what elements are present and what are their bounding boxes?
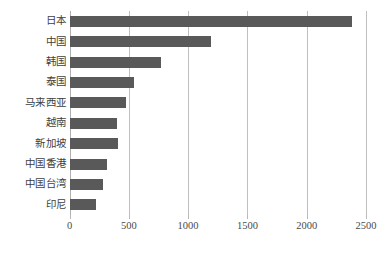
bars-layer (70, 11, 367, 215)
bar (70, 159, 107, 170)
value-axis: 05001000150020002500 (70, 219, 367, 239)
tick-label: 500 (121, 219, 137, 232)
category-label: 中国香港 (0, 158, 66, 170)
tick-label: 1500 (237, 219, 258, 232)
bar (70, 138, 119, 149)
category-axis: 日本中国韩国泰国马来西亚越南新加坡中国香港中国台湾印尼 (0, 11, 66, 215)
category-label: 日本 (0, 15, 66, 27)
bar (70, 199, 96, 210)
bar (70, 179, 104, 190)
tick-label: 1000 (178, 219, 199, 232)
tick-label: 0 (67, 219, 72, 232)
category-label: 马来西亚 (0, 97, 66, 109)
bar (70, 16, 352, 27)
tick-label: 2000 (296, 219, 317, 232)
category-label: 新加坡 (0, 138, 66, 150)
bar (70, 57, 161, 68)
category-label: 中国台湾 (0, 178, 66, 190)
tick-label: 2500 (356, 219, 377, 232)
plot-area (70, 11, 367, 215)
bar (70, 36, 211, 47)
bar (70, 97, 126, 108)
category-label: 韩国 (0, 56, 66, 68)
gridline-2500 (366, 11, 367, 215)
bar-chart: 日本中国韩国泰国马来西亚越南新加坡中国香港中国台湾印尼 050010001500… (0, 0, 390, 262)
category-label: 越南 (0, 117, 66, 129)
category-label: 中国 (0, 36, 66, 48)
bar (70, 118, 117, 129)
category-label: 印尼 (0, 199, 66, 211)
bar (70, 77, 135, 88)
category-label: 泰国 (0, 76, 66, 88)
